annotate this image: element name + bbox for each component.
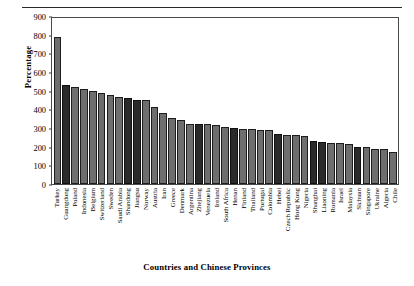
y-axis-tick-400: 400 bbox=[33, 106, 46, 115]
x-axis-tick-slot: Finland bbox=[238, 186, 247, 254]
x-axis-tick-liaoning: Liaoning bbox=[319, 188, 326, 212]
x-axis-tick-slot: Israel bbox=[336, 186, 345, 254]
x-axis-tick-turkey: Turkey bbox=[53, 188, 60, 207]
x-axis-tick-slot: Denmark bbox=[176, 186, 185, 254]
bar-thailand bbox=[248, 129, 256, 184]
x-axis-tick-sichuan: Sichuan bbox=[355, 188, 362, 210]
x-axis-tick-nigeria: Nigeria bbox=[301, 188, 308, 208]
bar-guangdong bbox=[62, 85, 70, 184]
bar-turkey bbox=[54, 37, 62, 184]
bar-indonesia bbox=[80, 89, 88, 184]
bar-nigeria bbox=[301, 136, 309, 184]
bar-liaoning bbox=[318, 142, 326, 184]
x-axis-tick-slot: Turkey bbox=[52, 186, 61, 254]
x-axis-tick-slot: Nigeria bbox=[301, 186, 310, 254]
x-axis-tick-slot: Singapore bbox=[363, 186, 372, 254]
x-axis-tick-slot: Henan bbox=[230, 186, 239, 254]
x-axis-tick-slot: Czech Republic bbox=[283, 186, 292, 254]
x-axis-tick-guangdong: Guangdong bbox=[62, 188, 69, 220]
x-axis-tick-slot: Zhejiang bbox=[194, 186, 203, 254]
x-axis-tick-sweden: Sweden bbox=[106, 188, 113, 210]
x-axis-tick-malaysia: Malaysia bbox=[346, 188, 353, 213]
bar-czech-republic bbox=[283, 135, 291, 184]
bar-ireland bbox=[212, 125, 220, 184]
y-axis-tick-600: 600 bbox=[33, 69, 46, 78]
x-axis-tick-slot: Iran bbox=[159, 186, 168, 254]
x-axis-tick-slot: Liaoning bbox=[318, 186, 327, 254]
x-axis-tick-slot: Indonesia bbox=[79, 186, 88, 254]
x-axis-title: Countries and Chinese Provinces bbox=[0, 262, 414, 272]
chart-figure: Percentage 0100200300400500600700800900 … bbox=[0, 0, 414, 286]
x-axis-tick-colombia: Colombia bbox=[266, 188, 273, 215]
x-axis-tick-slot: Malaysia bbox=[345, 186, 354, 254]
x-axis-tick-shanghai: Shanghai bbox=[310, 188, 317, 213]
x-axis-tick-indonesia: Indonesia bbox=[80, 188, 87, 214]
y-axis-tick-200: 200 bbox=[33, 143, 46, 152]
x-axis-tick-slot: Poland bbox=[70, 186, 79, 254]
x-axis-tick-henan: Henan bbox=[230, 188, 237, 206]
y-axis-tick-0: 0 bbox=[42, 181, 46, 190]
x-axis-tick-greece: Greece bbox=[168, 188, 175, 207]
bar-argentina bbox=[186, 124, 194, 184]
bar-poland bbox=[71, 87, 79, 184]
x-axis-tick-slot: Sichuan bbox=[354, 186, 363, 254]
plot-area bbox=[51, 17, 399, 185]
x-axis-tick-venezuela: Venezuela bbox=[204, 188, 211, 216]
bar-south-africa bbox=[221, 127, 229, 184]
y-axis-tick-700: 700 bbox=[33, 50, 46, 59]
bar-series bbox=[52, 18, 398, 184]
y-axis-tick-900: 900 bbox=[33, 13, 46, 22]
top-rule-divider bbox=[22, 7, 402, 8]
x-axis-tick-slot: Saudi Arabia bbox=[114, 186, 123, 254]
bar-finland bbox=[239, 129, 247, 184]
bar-austria bbox=[151, 107, 159, 184]
x-axis-tick-singapore: Singapore bbox=[364, 188, 371, 216]
x-axis-tick-slot: Algeria bbox=[380, 186, 389, 254]
x-axis-tick-portugal: Portugal bbox=[257, 188, 264, 211]
x-axis-tick-ireland: Ireland bbox=[213, 188, 220, 207]
x-axis-tick-slot: Sweden bbox=[105, 186, 114, 254]
x-axis-tick-slot: Norway bbox=[141, 186, 150, 254]
bar-chile bbox=[389, 152, 397, 184]
x-axis-tick-austria: Austria bbox=[151, 188, 158, 208]
x-axis-tick-denmark: Denmark bbox=[177, 188, 184, 213]
x-axis-tick-israel: Israel bbox=[337, 188, 344, 203]
bar-sichuan bbox=[354, 147, 362, 184]
x-axis-tick-norway: Norway bbox=[142, 188, 149, 210]
bar-norway bbox=[142, 100, 150, 184]
x-axis-tick-slot: South Africa bbox=[221, 186, 230, 254]
x-axis-tick-slot: Guangdong bbox=[61, 186, 70, 254]
x-axis-tick-slot: Hebei bbox=[274, 186, 283, 254]
bar-singapore bbox=[363, 147, 371, 184]
x-axis-tick-slot: Romania bbox=[327, 186, 336, 254]
bar-saudi-arabia bbox=[115, 97, 123, 184]
bar-shanghai bbox=[310, 141, 318, 184]
x-axis-tick-finland: Finland bbox=[239, 188, 246, 209]
x-axis-tick-argentina: Argentina bbox=[186, 188, 193, 215]
y-axis-tick-300: 300 bbox=[33, 125, 46, 134]
x-axis-tick-slot: Portugal bbox=[256, 186, 265, 254]
x-axis-tick-shandong: Shandong bbox=[124, 188, 131, 215]
bar-portugal bbox=[257, 130, 265, 184]
x-axis-tick-slot: Hong Kong bbox=[292, 186, 301, 254]
x-axis-tick-czech-republic: Czech Republic bbox=[284, 188, 291, 231]
x-axis-tick-ukraine: Ukraine bbox=[372, 188, 379, 210]
bar-belgium bbox=[89, 91, 97, 184]
x-axis-tick-labels: TurkeyGuangdongPolandIndonesiaBelgiumSwi… bbox=[51, 186, 399, 254]
x-axis-tick-slot: Austria bbox=[150, 186, 159, 254]
x-axis-tick-zhejiang: Zhejiang bbox=[195, 188, 202, 212]
x-axis-tick-slot: Jiangsu bbox=[132, 186, 141, 254]
x-axis-tick-slot: Shandong bbox=[123, 186, 132, 254]
y-axis-tick-500: 500 bbox=[33, 87, 46, 96]
x-axis-tick-thailand: Thailand bbox=[248, 188, 255, 212]
x-axis-tick-slot: Thailand bbox=[247, 186, 256, 254]
bar-israel bbox=[336, 143, 344, 184]
x-axis-tick-slot: Colombia bbox=[265, 186, 274, 254]
bar-colombia bbox=[265, 130, 273, 184]
bar-greece bbox=[168, 118, 176, 184]
x-axis-tick-chile: Chile bbox=[390, 188, 397, 203]
x-axis-tick-switzerland: Switzerland bbox=[97, 188, 104, 220]
x-axis-tick-slot: Switzerland bbox=[96, 186, 105, 254]
bar-hong-kong bbox=[292, 135, 300, 184]
x-axis-tick-south-africa: South Africa bbox=[222, 188, 229, 222]
